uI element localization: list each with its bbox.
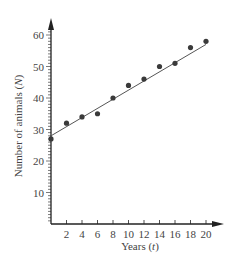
svg-text:10: 10	[33, 187, 45, 199]
data-point	[203, 39, 208, 44]
svg-text:10: 10	[123, 228, 135, 240]
data-point	[126, 83, 131, 88]
data-point	[188, 45, 193, 50]
y-axis-ticks: 102030405060	[33, 29, 51, 221]
scatter-chart: 102030405060 2468101214161820	[0, 0, 233, 268]
best-fit-line	[51, 44, 206, 135]
svg-text:20: 20	[33, 155, 45, 167]
data-point	[48, 136, 53, 141]
data-point	[141, 77, 146, 82]
svg-text:20: 20	[201, 228, 213, 240]
data-point	[157, 64, 162, 69]
svg-text:14: 14	[154, 228, 166, 240]
svg-text:60: 60	[33, 29, 45, 41]
svg-text:50: 50	[33, 61, 45, 73]
x-axis-ticks: 2468101214161820	[64, 220, 212, 240]
y-axis-label: Number of animals (N)	[12, 56, 24, 196]
data-point	[95, 111, 100, 116]
svg-text:4: 4	[79, 228, 85, 240]
data-point	[172, 61, 177, 66]
svg-text:12: 12	[139, 228, 150, 240]
svg-text:6: 6	[95, 228, 101, 240]
svg-text:16: 16	[170, 228, 182, 240]
x-axis-label: Years (t)	[90, 240, 190, 252]
svg-text:8: 8	[110, 228, 116, 240]
svg-text:30: 30	[33, 124, 45, 136]
data-point	[64, 121, 69, 126]
svg-text:40: 40	[33, 92, 45, 104]
svg-text:18: 18	[185, 228, 197, 240]
svg-text:2: 2	[64, 228, 70, 240]
data-point	[79, 114, 84, 119]
data-point	[110, 95, 115, 100]
